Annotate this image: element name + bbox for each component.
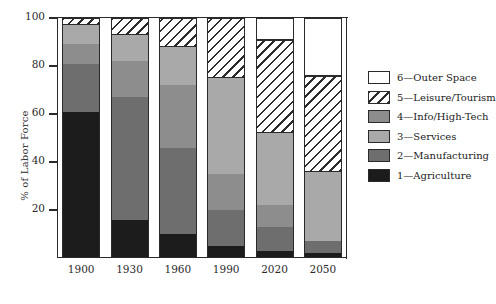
legend-item[interactable]: 3—Services (368, 127, 489, 147)
legend-item[interactable]: 2—Manufacturing (368, 146, 489, 166)
bar-outline (256, 18, 294, 258)
y-axis-tick-mark (49, 65, 57, 66)
bar-outline (304, 18, 342, 258)
y-axis-tick-mark (49, 209, 57, 210)
legend-swatch-medium-gray (368, 110, 390, 123)
bar-column[interactable] (111, 18, 149, 258)
y-axis-tick-mark (49, 113, 57, 114)
y-axis-tick-label: 60 (32, 106, 45, 118)
legend-item[interactable]: 6—Outer Space (368, 68, 489, 88)
bar-series-group (57, 18, 347, 258)
y-axis-tick-label: 100 (25, 10, 45, 22)
legend-label: 2—Manufacturing (397, 150, 489, 161)
bar-column[interactable] (304, 18, 342, 258)
legend-label: 6—Outer Space (397, 72, 477, 83)
y-axis-tick-mark (49, 161, 57, 162)
legend-swatch-light-gray (368, 130, 390, 143)
y-axis-tick-label: 80 (32, 58, 45, 70)
bar-column[interactable] (159, 18, 197, 258)
bar-outline (111, 18, 149, 258)
y-axis-tick-mark (49, 17, 57, 18)
legend-swatch-dark-gray (368, 149, 390, 162)
legend-swatch-diagonal-hatch (368, 91, 390, 104)
x-axis-label: 2050 (293, 263, 353, 275)
bar-column[interactable] (62, 18, 100, 258)
legend-label: 1—Agriculture (397, 170, 471, 181)
legend-swatch-empty (368, 71, 390, 84)
legend-swatch-black (368, 169, 390, 182)
y-axis-tick-label: 20 (32, 202, 45, 214)
legend-label: 5—Leisure/Tourism (397, 92, 496, 103)
bar-column[interactable] (256, 18, 294, 258)
bar-outline (62, 18, 100, 258)
bar-column[interactable] (207, 18, 245, 258)
bar-outline (207, 18, 245, 258)
y-axis-tick-label: 40 (32, 154, 45, 166)
legend-item[interactable]: 5—Leisure/Tourism (368, 88, 489, 108)
legend-item[interactable]: 1—Agriculture (368, 166, 489, 186)
legend-label: 3—Services (397, 131, 456, 142)
y-axis-title: % of Labor Force (19, 86, 30, 226)
chart-legend: 6—Outer Space5—Leisure/Tourism4—Info/Hig… (368, 68, 489, 185)
bar-outline (159, 18, 197, 258)
legend-item[interactable]: 4—Info/High-Tech (368, 107, 489, 127)
legend-label: 4—Info/High-Tech (397, 111, 488, 122)
